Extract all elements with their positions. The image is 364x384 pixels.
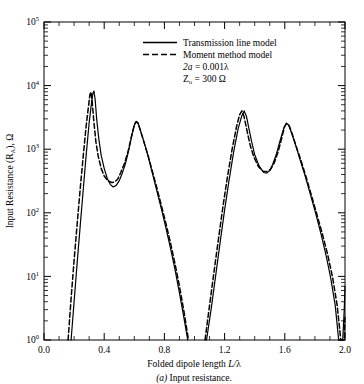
x-tick-label: 1.2 xyxy=(219,345,231,355)
curve-transmission-line xyxy=(207,111,345,340)
input-resistance-chart: 100101102103104105 0.00.40.81.21.62.0 In… xyxy=(0,0,364,384)
y-axis-title: Input Resistance (RA), Ω xyxy=(5,134,16,229)
figure-caption: (a) Input resistance. xyxy=(156,373,232,384)
x-axis-title-main: Folded dipole length xyxy=(147,359,228,369)
data-curves xyxy=(68,91,345,340)
legend: Transmission line model Moment method mo… xyxy=(143,38,277,85)
x-tick-label: 0.4 xyxy=(98,345,110,355)
x-axis-title: Folded dipole length L/λ xyxy=(147,359,241,369)
legend-dashed-label: Moment method model xyxy=(183,50,273,60)
x-axis-title-lambda: λ xyxy=(236,359,241,369)
curve-moment-method xyxy=(68,92,188,340)
figure-caption-prefix: (a) xyxy=(156,373,167,384)
legend-param-radius-symbol: 2a xyxy=(183,62,193,72)
y-axis-title-pre: Input Resistance (R xyxy=(5,153,16,229)
y-tick-label: 102 xyxy=(26,206,39,218)
x-tick-label: 2.0 xyxy=(339,345,351,355)
y-axis-tick-labels: 100101102103104105 xyxy=(26,15,40,345)
svg-text:Input Resistance (RA), Ω: Input Resistance (RA), Ω xyxy=(5,134,16,229)
y-tick-label: 103 xyxy=(26,142,39,154)
legend-param-radius: 2a = 0.001λ xyxy=(183,62,229,72)
legend-param-impedance: Zo = 300 Ω xyxy=(183,74,226,85)
curve-transmission-line xyxy=(71,91,188,340)
x-tick-label: 1.6 xyxy=(279,345,291,355)
y-tick-label: 100 xyxy=(26,333,39,345)
y-axis-title-post: ), Ω xyxy=(5,134,16,149)
figure-caption-text: Input resistance. xyxy=(167,373,232,383)
legend-param-impedance-value: = 300 Ω xyxy=(192,74,226,84)
y-tick-label: 105 xyxy=(26,15,39,27)
legend-solid-label: Transmission line model xyxy=(183,38,277,48)
x-tick-label: 0.8 xyxy=(158,345,170,355)
x-axis-tick-labels: 0.00.40.81.21.62.0 xyxy=(38,345,351,355)
figure-container: 100101102103104105 0.00.40.81.21.62.0 In… xyxy=(0,0,364,384)
x-tick-label: 0.0 xyxy=(38,345,50,355)
legend-param-radius-value: = 0.001λ xyxy=(193,62,229,72)
curve-moment-method xyxy=(205,111,345,340)
y-tick-label: 104 xyxy=(26,79,40,91)
y-tick-label: 101 xyxy=(26,270,39,282)
